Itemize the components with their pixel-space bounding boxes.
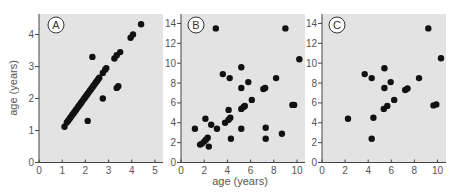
data-point bbox=[279, 131, 285, 137]
y-tick-label: 10 bbox=[306, 58, 318, 69]
data-point bbox=[425, 25, 431, 31]
panel-b-x-axis-title: age (years) bbox=[212, 175, 268, 187]
y-tick-label: 8 bbox=[170, 78, 176, 89]
panel-a-y-axis-title: age (years) bbox=[7, 60, 19, 116]
x-tick-label: 0 bbox=[319, 165, 325, 176]
x-tick-label: 10 bbox=[291, 165, 303, 176]
panel-b-label-badge: B bbox=[188, 17, 204, 33]
panel-b-y-ticks: 02468101214 bbox=[165, 18, 181, 168]
panel-c-letter: C bbox=[333, 19, 341, 31]
panel-a: 012345 01234 A age (years) bbox=[7, 14, 163, 176]
y-tick-label: 4 bbox=[170, 117, 176, 128]
data-point bbox=[345, 116, 351, 122]
data-point bbox=[404, 85, 410, 91]
data-point bbox=[245, 79, 251, 85]
data-point bbox=[208, 122, 214, 128]
data-point bbox=[89, 54, 95, 60]
data-point bbox=[100, 95, 106, 101]
y-tick-label: 12 bbox=[165, 38, 177, 49]
x-tick-label: 5 bbox=[152, 165, 158, 176]
data-point bbox=[206, 143, 212, 149]
data-point bbox=[130, 31, 136, 37]
panel-a-y-ticks: 01234 bbox=[28, 29, 39, 168]
panel-c-label-badge: C bbox=[329, 17, 345, 33]
x-tick-label: 6 bbox=[248, 165, 254, 176]
panel-a-letter: A bbox=[52, 19, 60, 31]
x-tick-label: 2 bbox=[201, 165, 207, 176]
y-tick-label: 0 bbox=[170, 157, 176, 168]
data-point bbox=[263, 125, 269, 131]
data-point bbox=[291, 102, 297, 108]
x-tick-label: 2 bbox=[83, 165, 89, 176]
data-point bbox=[263, 136, 269, 142]
x-tick-label: 2 bbox=[342, 165, 348, 176]
data-point bbox=[381, 65, 387, 71]
scatter-figure: 012345 01234 A age (years) 0246810 02468… bbox=[0, 0, 461, 193]
y-tick-label: 14 bbox=[165, 18, 177, 29]
data-point bbox=[273, 75, 279, 81]
data-point bbox=[222, 120, 228, 126]
x-tick-label: 6 bbox=[389, 165, 395, 176]
x-tick-label: 1 bbox=[59, 165, 65, 176]
data-point bbox=[103, 65, 109, 71]
data-point bbox=[370, 115, 376, 121]
data-point bbox=[227, 115, 233, 121]
data-point bbox=[369, 136, 375, 142]
y-tick-label: 6 bbox=[170, 97, 176, 108]
data-point bbox=[220, 71, 226, 77]
x-tick-label: 10 bbox=[432, 165, 444, 176]
data-point bbox=[238, 126, 244, 132]
data-point bbox=[381, 85, 387, 91]
data-point bbox=[262, 85, 268, 91]
x-tick-label: 8 bbox=[412, 165, 418, 176]
data-point bbox=[117, 49, 123, 55]
y-tick-label: 4 bbox=[28, 29, 34, 40]
data-point bbox=[362, 71, 368, 77]
y-tick-label: 6 bbox=[311, 97, 317, 108]
data-point bbox=[115, 83, 121, 89]
y-tick-label: 2 bbox=[170, 137, 176, 148]
data-point bbox=[249, 97, 255, 103]
data-point bbox=[369, 75, 375, 81]
data-point bbox=[282, 25, 288, 31]
data-point bbox=[202, 116, 208, 122]
data-point bbox=[85, 118, 91, 124]
data-point bbox=[433, 101, 439, 107]
data-point bbox=[197, 141, 203, 147]
y-tick-label: 2 bbox=[28, 93, 34, 104]
data-point bbox=[438, 55, 444, 61]
data-point bbox=[213, 25, 219, 31]
panel-a-plot-area bbox=[39, 14, 163, 162]
data-point bbox=[388, 79, 394, 85]
data-point bbox=[384, 103, 390, 109]
data-point bbox=[296, 56, 302, 62]
data-point bbox=[238, 85, 244, 91]
y-tick-label: 12 bbox=[306, 38, 318, 49]
data-point bbox=[238, 64, 244, 70]
data-point bbox=[416, 75, 422, 81]
y-tick-label: 0 bbox=[311, 157, 317, 168]
x-tick-label: 4 bbox=[225, 165, 231, 176]
y-tick-label: 10 bbox=[165, 58, 177, 69]
data-point bbox=[138, 21, 144, 27]
x-tick-label: 4 bbox=[365, 165, 371, 176]
x-tick-label: 0 bbox=[36, 165, 42, 176]
data-point bbox=[192, 126, 198, 132]
y-tick-label: 14 bbox=[306, 18, 318, 29]
data-point bbox=[214, 126, 220, 132]
panel-b: 0246810 02468101214 B age (years) bbox=[165, 14, 305, 187]
y-tick-label: 8 bbox=[311, 78, 317, 89]
y-tick-label: 1 bbox=[28, 125, 34, 136]
panel-c-y-ticks: 02468101214 bbox=[306, 18, 322, 168]
y-tick-label: 2 bbox=[311, 137, 317, 148]
y-tick-label: 4 bbox=[311, 117, 317, 128]
x-tick-label: 0 bbox=[178, 165, 184, 176]
data-point bbox=[228, 136, 234, 142]
x-tick-label: 3 bbox=[106, 165, 112, 176]
data-point bbox=[391, 97, 397, 103]
y-tick-label: 3 bbox=[28, 61, 34, 72]
y-tick-label: 0 bbox=[28, 157, 34, 168]
panel-c: 0246810 02468101214 C bbox=[306, 14, 446, 176]
panel-b-letter: B bbox=[192, 19, 199, 31]
panel-a-label-badge: A bbox=[48, 17, 64, 33]
